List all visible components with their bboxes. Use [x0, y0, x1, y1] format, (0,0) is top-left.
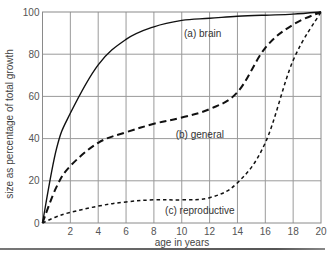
x-tick-label: 12 — [204, 226, 216, 237]
x-tick-label: 16 — [260, 226, 272, 237]
bottom-rule — [0, 248, 325, 250]
curve-label-brain: (a) brain — [184, 28, 221, 39]
y-tick-label: 0 — [34, 218, 40, 229]
x-tick-label: 14 — [232, 226, 244, 237]
y-tick-label: 20 — [28, 175, 40, 186]
curve-labels: (a) brain(b) general(c) reproductive — [165, 28, 235, 216]
x-tick-label: 6 — [123, 226, 129, 237]
x-tick-label: 2 — [68, 226, 74, 237]
x-axis-label: age in years — [155, 237, 209, 248]
curve-label-reproductive: (c) reproductive — [165, 205, 235, 216]
y-tick-label: 60 — [28, 91, 40, 102]
x-tick-label: 20 — [315, 226, 327, 237]
x-tick-label: 8 — [151, 226, 157, 237]
x-axis-ticks: 2468101214161820 — [68, 226, 327, 237]
y-tick-label: 80 — [28, 49, 40, 60]
growth-curves-chart: 020406080100 2468101214161820 (a) brain(… — [0, 0, 329, 255]
y-tick-label: 100 — [23, 7, 40, 18]
x-tick-label: 18 — [288, 226, 300, 237]
y-axis-ticks: 020406080100 — [23, 7, 40, 229]
x-tick-label: 4 — [95, 226, 101, 237]
y-axis-label: size as percentage of total growth — [4, 49, 15, 199]
curve-label-general: (b) general — [176, 129, 224, 140]
y-tick-label: 40 — [28, 133, 40, 144]
x-tick-label: 10 — [176, 226, 188, 237]
